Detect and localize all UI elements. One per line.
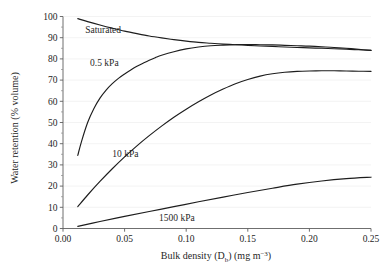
y-tick-label: 50 (48, 118, 58, 128)
y-tick-label: 70 (48, 75, 58, 85)
series-label-1500-kpa: 1500 kPa (159, 213, 195, 223)
y-tick-label: 20 (48, 181, 58, 191)
series-label-saturated: Saturated (85, 25, 121, 35)
y-tick-label: 100 (43, 12, 58, 22)
y-axis-title: Water retention (% volume) (9, 72, 21, 184)
water-retention-line-chart: 0102030405060708090100 0.000.050.100.150… (0, 0, 391, 273)
x-tick-label: 0.15 (239, 234, 256, 244)
x-tick-label: 0.25 (363, 234, 380, 244)
y-tick-label: 60 (48, 97, 58, 107)
y-tick-label: 80 (48, 54, 58, 64)
series-label-10-kpa: 10 kPa (112, 149, 139, 159)
plot-background (0, 0, 391, 273)
series-label-0-5-kpa: 0.5 kPa (90, 58, 119, 68)
x-tick-label: 0.20 (301, 234, 318, 244)
x-tick-label: 0.05 (116, 234, 133, 244)
y-tick-label: 40 (48, 139, 58, 149)
x-tick-label: 0.10 (178, 234, 195, 244)
y-tick-label: 0 (53, 224, 58, 234)
y-tick-label: 30 (48, 160, 58, 170)
y-tick-label: 90 (48, 33, 58, 43)
y-axis-title-text: Water retention (% volume) (9, 72, 21, 184)
chart-figure: 0102030405060708090100 0.000.050.100.150… (0, 0, 391, 273)
y-tick-label: 10 (48, 203, 58, 213)
x-tick-label: 0.00 (55, 234, 72, 244)
